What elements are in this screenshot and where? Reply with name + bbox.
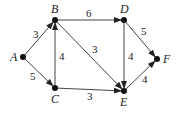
edge-weight-label: 3 (87, 90, 93, 102)
edge-e-f (124, 61, 155, 91)
node-c (52, 85, 58, 91)
edge-weight-label: 4 (128, 50, 134, 62)
node-b (52, 17, 58, 23)
node-label: A (9, 50, 18, 64)
node-label: B (51, 2, 59, 16)
edge-weight-label: 6 (86, 7, 92, 19)
directed-weighted-graph: 354633454ABCDEF (0, 0, 177, 113)
edge-weight-label: 4 (59, 50, 65, 62)
edge-a-c (23, 57, 53, 86)
edge-weight-label: 4 (142, 73, 148, 85)
node-label: F (162, 52, 171, 66)
graph-canvas: 354633454ABCDEF (0, 0, 177, 113)
edge-weight-label: 5 (141, 25, 147, 37)
node-label: C (51, 92, 60, 106)
edge-weight-label: 3 (92, 43, 98, 55)
node-label: D (119, 2, 129, 16)
node-a (20, 54, 26, 60)
node-label: E (119, 95, 128, 109)
node-f (154, 56, 160, 62)
edge-b-e (55, 20, 122, 89)
edge-weight-label: 3 (33, 28, 39, 40)
node-d (121, 17, 127, 23)
edge-weight-label: 5 (30, 70, 36, 82)
node-e (121, 88, 127, 94)
